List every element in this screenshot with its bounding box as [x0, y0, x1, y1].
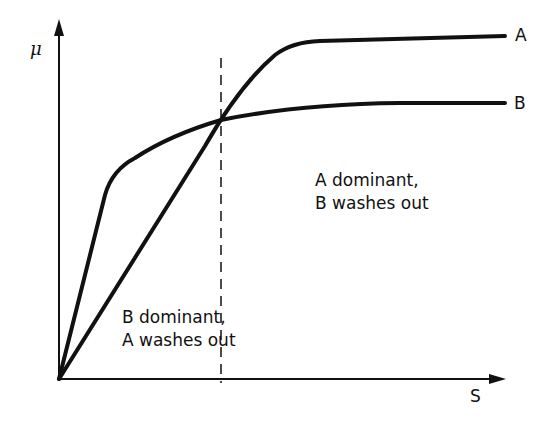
y-axis-arrow-icon — [54, 19, 64, 36]
x-axis-arrow-icon — [489, 374, 506, 384]
region-left-line1: B dominant, — [122, 306, 236, 329]
curve-b-label: B — [514, 92, 526, 115]
growth-rate-chart — [0, 0, 551, 427]
region-right-line1: A dominant, — [315, 169, 429, 192]
x-axis-label: S — [470, 385, 481, 408]
region-left-line2: A washes out — [122, 329, 236, 352]
y-axis-label: μ — [30, 37, 42, 60]
curve-a-label: A — [515, 24, 527, 47]
region-left-annotation: B dominant, A washes out — [122, 306, 236, 352]
region-right-annotation: A dominant, B washes out — [315, 169, 429, 215]
region-right-line2: B washes out — [315, 192, 429, 215]
